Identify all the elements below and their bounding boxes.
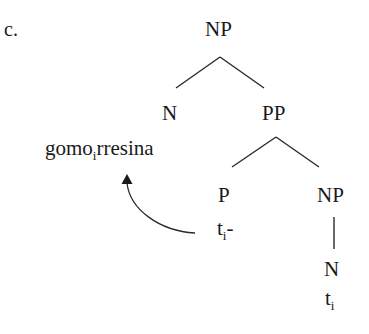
arrowhead-icon — [122, 174, 133, 184]
edge-np-n — [176, 57, 220, 88]
word-stem: gomo — [45, 136, 93, 160]
trace-n: ti — [325, 288, 334, 309]
word-gomoirresina: gomoirresina — [45, 138, 154, 159]
syntax-tree-diagram: c. NP N PP gomoirresina P NP ti- N ti — [0, 0, 369, 334]
edge-np-pp — [220, 57, 264, 88]
example-label: c. — [4, 19, 18, 39]
node-np-inner: NP — [317, 185, 344, 206]
trace-p-hyphen: - — [226, 216, 233, 240]
trace-p: ti- — [217, 218, 233, 239]
node-pp: PP — [262, 103, 285, 124]
tree-edges — [0, 0, 369, 334]
node-p: P — [218, 185, 230, 206]
edge-pp-np — [276, 137, 319, 167]
node-n-head: N — [162, 103, 177, 124]
node-n-inner: N — [324, 259, 339, 280]
movement-arrow-curve — [127, 183, 195, 233]
node-np-root: NP — [205, 19, 232, 40]
trace-n-index: i — [331, 298, 335, 313]
edge-pp-p — [232, 137, 276, 167]
word-suffix: rresina — [96, 136, 153, 160]
